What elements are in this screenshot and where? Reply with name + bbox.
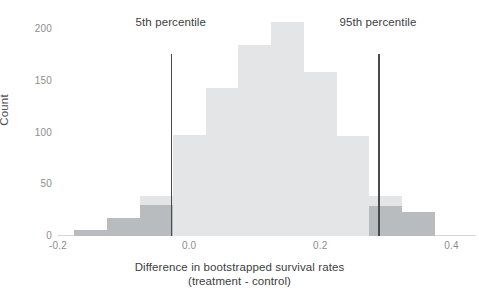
x-tick-label: 0.4	[444, 240, 459, 251]
histogram-bar	[304, 72, 337, 236]
x-axis-title: Difference in bootstrapped survival rate…	[0, 260, 479, 288]
y-axis-ticks: 050100150200	[10, 14, 52, 236]
histogram-bar-tail	[369, 206, 402, 236]
histogram-bar	[271, 22, 304, 236]
histogram-bar-tail	[107, 218, 140, 236]
y-tick-label: 100	[14, 127, 52, 138]
5th-percentile-label: 5th percentile	[136, 16, 206, 28]
y-tick-label: 0	[14, 230, 52, 241]
histogram-bar	[238, 45, 271, 236]
x-axis-title-line2: (treatment - control)	[0, 274, 479, 288]
histogram-bar-tail	[402, 212, 435, 236]
95th-percentile-label: 95th percentile	[340, 16, 417, 28]
y-tick-label: 150	[14, 75, 52, 86]
y-axis-title: Count	[0, 94, 10, 126]
95th-percentile-line	[378, 54, 380, 236]
histogram-bar-tail	[74, 230, 107, 236]
x-axis-title-line1: Difference in bootstrapped survival rate…	[135, 261, 345, 273]
x-tick-label: 0.0	[182, 240, 197, 251]
histogram-bar	[173, 135, 206, 236]
y-tick-label: 50	[14, 178, 52, 189]
5th-percentile-line	[171, 54, 173, 236]
x-axis-ticks: -0.20.00.20.4	[58, 240, 478, 256]
histogram-chart: 050100150200 Count 5th percentile95th pe…	[0, 0, 479, 301]
histogram-bar	[337, 136, 370, 236]
x-tick-label: 0.2	[313, 240, 328, 251]
histogram-bar	[206, 88, 239, 236]
plot-area: 5th percentile95th percentile	[58, 14, 458, 236]
histogram-bars	[58, 14, 458, 236]
y-tick-label: 200	[14, 23, 52, 34]
x-tick-label: -0.2	[49, 240, 67, 251]
histogram-bar-tail	[140, 205, 173, 236]
